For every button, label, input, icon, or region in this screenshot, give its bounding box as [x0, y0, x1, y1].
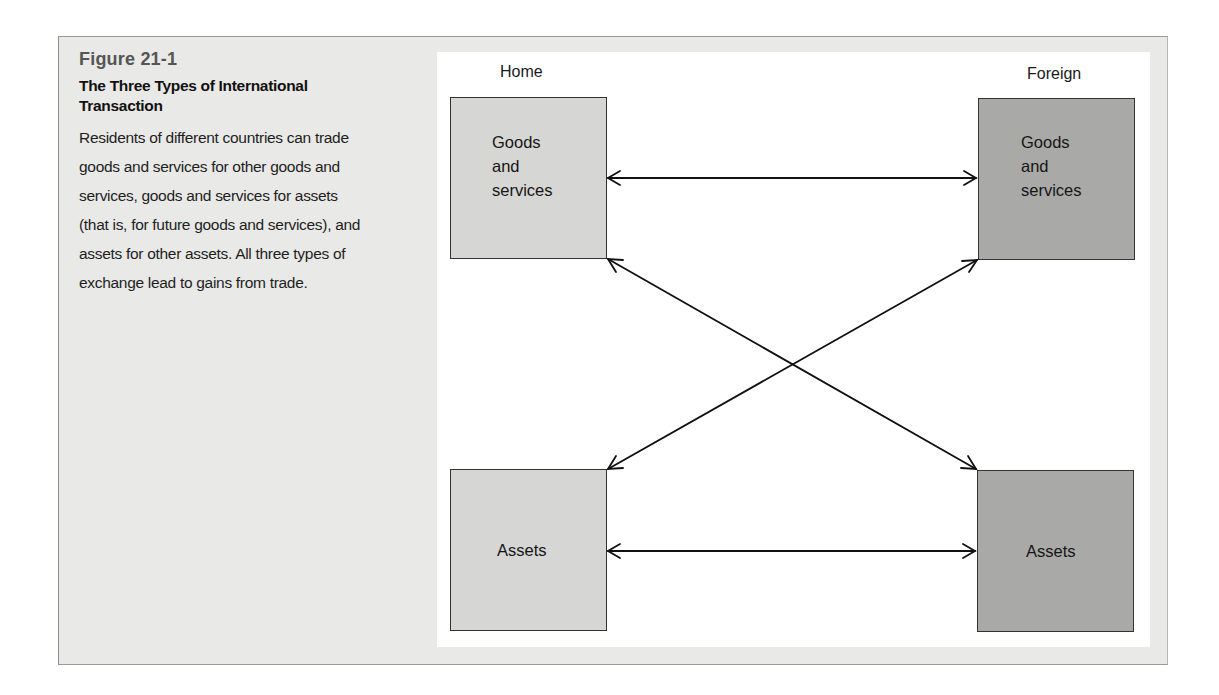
arrows-layer — [0, 0, 1219, 695]
arrow-assets-to-assets — [608, 544, 975, 558]
arrow-goods-to-goods — [608, 171, 976, 185]
